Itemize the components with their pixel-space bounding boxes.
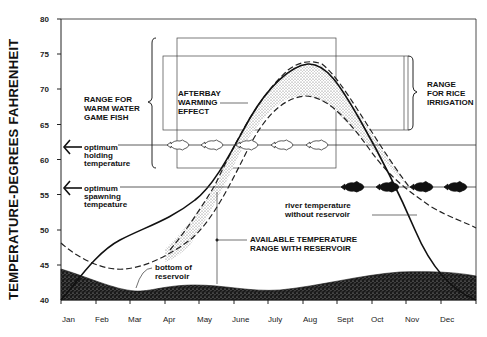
- bottom-of-reservoir-area: [61, 269, 476, 300]
- svg-text:75: 75: [40, 50, 49, 59]
- rice-label: RANGE FOR RICE IRRIGATION: [427, 80, 474, 107]
- svg-text:80: 80: [40, 15, 49, 24]
- svg-text:June: June: [232, 315, 250, 324]
- spawning-arrow-icon: [64, 181, 82, 195]
- svg-text:AVAILABLE TEMPERATURE: AVAILABLE TEMPERATURE: [250, 235, 358, 244]
- warm-water-brace-icon: [148, 38, 156, 168]
- svg-text:without reservoir: without reservoir: [284, 210, 350, 219]
- svg-text:tempeature: tempeature: [84, 200, 128, 209]
- svg-text:Mar: Mar: [128, 315, 142, 324]
- svg-text:Feb: Feb: [95, 315, 109, 324]
- svg-text:reservoir: reservoir: [155, 272, 189, 281]
- afterbay-label: AFTERBAY WARMING EFFECT: [178, 89, 221, 116]
- svg-text:45: 45: [40, 261, 49, 270]
- warm-water-label: RANGE FOR WARM WATER GAME FISH: [84, 95, 140, 122]
- svg-text:FOR RICE: FOR RICE: [427, 89, 466, 98]
- svg-text:65: 65: [40, 121, 49, 130]
- svg-text:EFFECT: EFFECT: [178, 107, 209, 116]
- svg-text:WARM WATER: WARM WATER: [84, 104, 140, 113]
- temperature-chart: 80 75 70 65 60 55 50 45 40 Jan Feb Mar A…: [0, 0, 487, 337]
- available-range-label: AVAILABLE TEMPERATURE RANGE WITH RESERVO…: [250, 235, 358, 253]
- svg-text:Jan: Jan: [62, 315, 75, 324]
- x-axis-ticks: Jan Feb Mar Apr May June July Aug Sept O…: [61, 300, 476, 324]
- rice-brace-icon: [408, 56, 417, 130]
- svg-text:70: 70: [40, 85, 49, 94]
- river-label: river temperature without reservoir: [284, 201, 351, 219]
- svg-text:Oct: Oct: [371, 315, 384, 324]
- svg-text:RANGE WITH RESERVOIR: RANGE WITH RESERVOIR: [250, 244, 351, 253]
- svg-text:RANGE FOR: RANGE FOR: [84, 95, 132, 104]
- svg-text:Apr: Apr: [163, 315, 176, 324]
- holding-label: optimum holding temperature: [84, 143, 131, 168]
- svg-text:40: 40: [40, 296, 49, 305]
- svg-text:60: 60: [40, 156, 49, 165]
- spawning-label: optimum spawning tempeature: [84, 184, 128, 209]
- svg-text:IRRIGATION: IRRIGATION: [427, 98, 474, 107]
- holding-arrow-icon: [64, 140, 82, 154]
- svg-text:bottom of: bottom of: [155, 263, 192, 272]
- svg-text:AFTERBAY: AFTERBAY: [178, 89, 221, 98]
- available-range-indicator: [216, 192, 247, 284]
- svg-text:Dec: Dec: [440, 315, 454, 324]
- svg-text:May: May: [197, 315, 212, 324]
- svg-text:WARMING: WARMING: [178, 98, 218, 107]
- y-axis-ticks: 80 75 70 65 60 55 50 45 40: [40, 15, 61, 305]
- svg-text:Aug: Aug: [303, 315, 317, 324]
- svg-text:RANGE: RANGE: [427, 80, 457, 89]
- svg-text:Sept: Sept: [337, 315, 354, 324]
- bottom-leader: [136, 268, 152, 288]
- svg-text:July: July: [268, 315, 282, 324]
- svg-text:GAME FISH: GAME FISH: [84, 113, 129, 122]
- svg-text:temperature: temperature: [84, 159, 131, 168]
- bottom-label: bottom of reservoir: [155, 263, 192, 281]
- svg-text:river temperature: river temperature: [285, 201, 351, 210]
- svg-text:55: 55: [40, 191, 49, 200]
- svg-text:50: 50: [40, 226, 49, 235]
- svg-text:Nov: Nov: [405, 315, 419, 324]
